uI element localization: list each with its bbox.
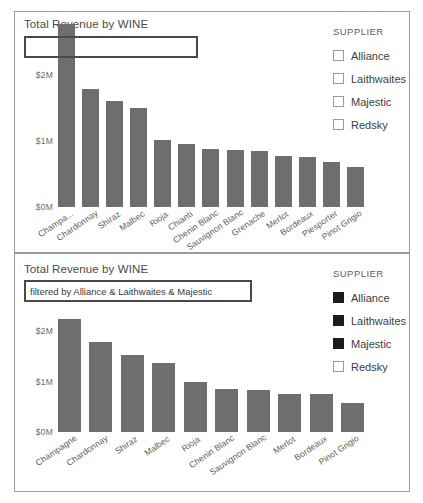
- filter-banner-top[interactable]: [24, 36, 198, 58]
- y-axis-tick-label: $1M: [36, 377, 58, 387]
- legend-item-laithwaites[interactable]: Laithwaites: [333, 309, 406, 332]
- chart-panel-filtered: Total Revenue by WINE filtered by Allian…: [14, 253, 410, 492]
- bar-series-top: [58, 42, 364, 207]
- bar-slot: [121, 306, 144, 432]
- bar-slot: [275, 42, 292, 207]
- checkbox-icon[interactable]: [333, 73, 344, 84]
- bar[interactable]: [215, 389, 238, 432]
- legend-item-label: Alliance: [351, 292, 390, 304]
- filter-banner-bottom[interactable]: filtered by Alliance & Laithwaites & Maj…: [24, 280, 252, 302]
- legend-item-majestic[interactable]: Majestic: [333, 332, 406, 355]
- page-title: Total Revenue by WINE: [24, 263, 148, 275]
- legend-item-redsky[interactable]: Redsky: [333, 113, 406, 136]
- bar[interactable]: [82, 89, 99, 207]
- x-axis-tick-label: Sauvignon Blanc: [208, 432, 268, 477]
- legend-item-alliance[interactable]: Alliance: [333, 286, 406, 309]
- plot-area-top: $0M$1M$2M: [58, 42, 364, 207]
- bar-slot: [299, 42, 316, 207]
- bar[interactable]: [202, 149, 219, 207]
- bar-slot: [227, 42, 244, 207]
- bar[interactable]: [106, 101, 123, 207]
- bar[interactable]: [247, 390, 270, 432]
- legend-item-label: Redsky: [351, 119, 388, 131]
- x-axis-tick-label: Malbec: [117, 209, 146, 233]
- checkbox-icon[interactable]: [333, 96, 344, 107]
- bar-slot: [184, 306, 207, 432]
- bar-slot: [278, 306, 301, 432]
- bar-slot: [251, 42, 268, 207]
- checkbox-icon[interactable]: [333, 292, 344, 303]
- bar[interactable]: [58, 319, 81, 432]
- bar[interactable]: [275, 156, 292, 207]
- legend-item-label: Redsky: [351, 361, 388, 373]
- legend-item-label: Alliance: [351, 50, 390, 62]
- plot-area-bottom: $0M$1M$2M: [58, 306, 364, 432]
- x-axis-tick-label: Shiraz: [96, 209, 122, 231]
- legend-title: SUPPLIER: [333, 268, 406, 279]
- bar[interactable]: [341, 403, 364, 432]
- legend-item-label: Majestic: [351, 96, 391, 108]
- bar-slot: [310, 306, 333, 432]
- bar[interactable]: [310, 394, 333, 432]
- checkbox-icon[interactable]: [333, 315, 344, 326]
- legend-item-laithwaites[interactable]: Laithwaites: [333, 67, 406, 90]
- legend-item-label: Majestic: [351, 338, 391, 350]
- bar-slot: [82, 42, 99, 207]
- bar-slot: [152, 306, 175, 432]
- bar-slot: [130, 42, 147, 207]
- legend-top: SUPPLIER AllianceLaithwaitesMajesticReds…: [333, 26, 406, 136]
- bar[interactable]: [323, 162, 340, 207]
- filter-banner-text: filtered by Alliance & Laithwaites & Maj…: [26, 286, 212, 297]
- y-axis-tick-label: $1M: [36, 136, 58, 146]
- bar[interactable]: [278, 394, 301, 432]
- bar[interactable]: [251, 151, 268, 207]
- bar-slot: [58, 306, 81, 432]
- bar[interactable]: [184, 382, 207, 432]
- legend-bottom: SUPPLIER AllianceLaithwaitesMajesticReds…: [333, 268, 406, 378]
- bar[interactable]: [154, 140, 171, 207]
- legend-item-redsky[interactable]: Redsky: [333, 355, 406, 378]
- checkbox-icon[interactable]: [333, 50, 344, 61]
- x-axis-tick-label: Malbec: [142, 434, 171, 458]
- checkbox-icon[interactable]: [333, 361, 344, 372]
- y-axis-tick-label: $0M: [36, 427, 58, 437]
- legend-item-alliance[interactable]: Alliance: [333, 44, 406, 67]
- bar[interactable]: [130, 108, 147, 207]
- bar-slot: [202, 42, 219, 207]
- bar-slot: [58, 42, 75, 207]
- bar-slot: [178, 42, 195, 207]
- y-axis-tick-label: $2M: [36, 70, 58, 80]
- chart-panel-unfiltered: Total Revenue by WINE $0M$1M$2M Champa..…: [14, 11, 410, 253]
- y-axis-tick-label: $2M: [36, 326, 58, 336]
- bar-series-bottom: [58, 306, 364, 432]
- y-axis-tick-label: $0M: [36, 202, 58, 212]
- legend-item-label: Laithwaites: [351, 315, 406, 327]
- checkbox-icon[interactable]: [333, 338, 344, 349]
- x-axis-tick-label: Rioja: [180, 434, 202, 454]
- checkbox-icon[interactable]: [333, 119, 344, 130]
- bar[interactable]: [227, 150, 244, 207]
- bar[interactable]: [347, 167, 364, 207]
- bar-slot: [89, 306, 112, 432]
- bar[interactable]: [178, 144, 195, 207]
- bar[interactable]: [152, 363, 175, 432]
- legend-item-majestic[interactable]: Majestic: [333, 90, 406, 113]
- bar-slot: [154, 42, 171, 207]
- bar-slot: [106, 42, 123, 207]
- bar[interactable]: [299, 157, 316, 207]
- bar-slot: [215, 306, 238, 432]
- bar[interactable]: [89, 342, 112, 432]
- bar-slot: [247, 306, 270, 432]
- bar[interactable]: [121, 355, 144, 432]
- page-title: Total Revenue by WINE: [24, 18, 148, 30]
- legend-title: SUPPLIER: [333, 26, 406, 37]
- legend-item-label: Laithwaites: [351, 73, 406, 85]
- x-axis-tick-label: Shiraz: [113, 434, 139, 456]
